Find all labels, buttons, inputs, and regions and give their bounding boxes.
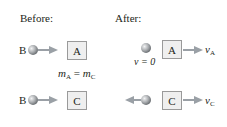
ball-b-before-row2: [28, 95, 38, 105]
ball-velocity-zero-label: v = 0: [134, 56, 155, 67]
mass-relation: mA = mC: [58, 68, 95, 83]
arrow-right-before-row2: [38, 96, 58, 104]
equals-sign: =: [74, 67, 80, 79]
velocity-c-subscript: C: [210, 100, 215, 108]
arrow-left-after-row2: [125, 96, 141, 104]
ball-b-after-row1: [141, 43, 151, 53]
ball-b-after-row2: [141, 95, 151, 105]
block-c-after: C: [162, 91, 182, 110]
arrow-right-before-row1: [38, 46, 58, 54]
ball-b-before-row1: [28, 45, 38, 55]
velocity-a-label: vA: [205, 44, 215, 59]
ball-label-b-row1: B: [19, 45, 26, 56]
block-a-after: A: [162, 40, 182, 59]
mass-c-subscript: C: [91, 73, 96, 81]
velocity-a-subscript: A: [210, 49, 215, 57]
block-c-after-label: C: [168, 95, 175, 107]
arrow-right-after-row1: [183, 46, 203, 54]
block-c-before: C: [67, 91, 87, 110]
arrow-right-after-row2: [183, 96, 203, 104]
block-a-after-label: A: [168, 44, 176, 56]
mass-a-symbol: m: [58, 67, 66, 79]
ball-label-b-row2: B: [19, 95, 26, 106]
block-c-before-label: C: [73, 95, 80, 107]
before-heading: Before:: [20, 13, 53, 24]
mass-a-subscript: A: [66, 73, 71, 81]
after-heading: After:: [115, 13, 141, 24]
mass-c-symbol: m: [83, 67, 91, 79]
block-a-before: A: [67, 41, 87, 60]
velocity-c-label: vC: [205, 95, 215, 110]
block-a-before-label: A: [73, 45, 81, 57]
